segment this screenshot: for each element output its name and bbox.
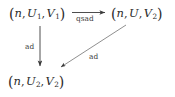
edge-label-qsad: qsad — [76, 15, 94, 22]
commutative-diagram: (n,U1,V1) (n,U,V2) (n,U2,V2) qsad ad ad — [0, 0, 175, 97]
edge-label-ad-vertical: ad — [25, 43, 34, 50]
edge-label-ad-diagonal: ad — [89, 53, 98, 60]
